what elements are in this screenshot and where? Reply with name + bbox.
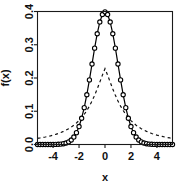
x-tick-label: -2 <box>74 150 84 162</box>
data-point-marker <box>105 12 109 16</box>
data-point-marker <box>126 116 130 120</box>
data-point-marker <box>82 106 86 110</box>
y-tick-label: 0.2 <box>23 70 35 85</box>
plot-background <box>0 0 180 190</box>
data-point-marker <box>108 20 112 24</box>
data-point-marker <box>90 62 94 66</box>
data-point-marker <box>74 131 78 135</box>
x-tick-label: -4 <box>48 150 59 162</box>
data-point-marker <box>95 32 99 36</box>
data-point-marker <box>72 135 76 139</box>
x-tick-label: 0 <box>102 150 108 162</box>
data-point-marker <box>111 32 115 36</box>
y-axis-label: f(x) <box>0 69 11 86</box>
y-tick-label: 0.3 <box>23 37 35 52</box>
data-point-marker <box>87 78 91 82</box>
x-tick-label: 4 <box>154 150 161 162</box>
data-point-marker <box>129 124 133 128</box>
data-point-marker <box>121 93 125 97</box>
x-axis-label: x <box>102 171 109 183</box>
y-tick-label: 0.0 <box>23 137 35 152</box>
data-point-marker <box>116 62 120 66</box>
y-tick-label: 0.1 <box>23 104 35 119</box>
data-point-marker <box>77 124 81 128</box>
data-point-marker <box>85 93 89 97</box>
data-point-marker <box>98 20 102 24</box>
data-point-marker <box>124 106 128 110</box>
data-point-marker <box>92 46 96 50</box>
x-tick-label: 2 <box>128 150 134 162</box>
data-point-marker <box>80 116 84 120</box>
y-tick-label: 0.4 <box>23 3 35 19</box>
density-plot: -4-2024 0.00.10.20.30.4 x f(x) <box>0 0 180 190</box>
data-point-marker <box>131 131 135 135</box>
data-point-marker <box>113 46 117 50</box>
chart-container: -4-2024 0.00.10.20.30.4 x f(x) <box>0 0 180 190</box>
data-point-marker <box>118 78 122 82</box>
